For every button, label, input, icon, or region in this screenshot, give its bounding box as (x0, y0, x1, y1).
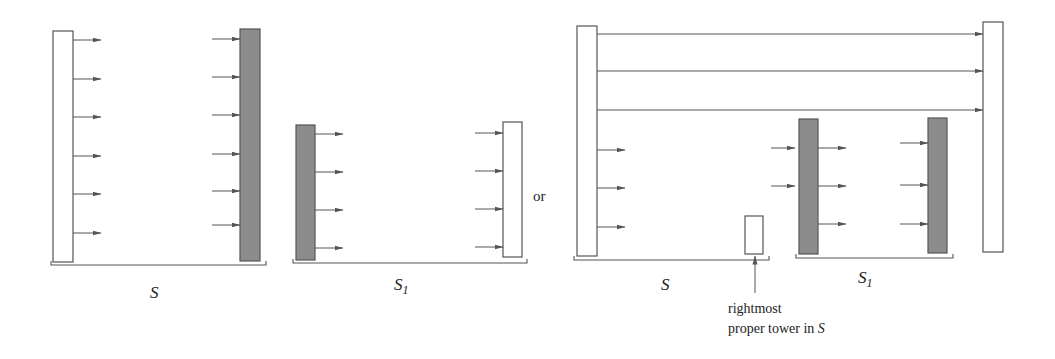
left-S1-tower-2 (503, 122, 522, 257)
right-left-tall-tower (577, 26, 597, 256)
right-S1-tower-1 (799, 119, 818, 254)
left-S1-tower-1 (296, 125, 315, 260)
left-S-bracket (51, 261, 266, 265)
right-right-tall-tower (983, 22, 1003, 252)
diagram-shapes (51, 22, 1003, 293)
annotation-line2-italic: S (818, 321, 825, 336)
left-S1-bracket (293, 259, 527, 263)
left-S-tower-2 (240, 29, 260, 261)
rightmost-proper-tower (745, 216, 763, 254)
annotation-line2: proper tower in S (728, 321, 825, 336)
left-label-S1-sub: 1 (403, 283, 409, 297)
annotation-line2-text: proper tower in (728, 321, 818, 336)
annotation-line1: rightmost (728, 301, 782, 316)
right-S1-tower-2 (928, 118, 947, 253)
right-label-S: S (661, 275, 670, 294)
left-label-S: S (150, 283, 159, 302)
right-S-bracket (574, 256, 769, 260)
left-S-tower-1 (53, 31, 73, 262)
right-label-S1: S1 (858, 268, 873, 290)
or-separator: or (533, 188, 546, 204)
right-S1-bracket (796, 254, 953, 258)
right-label-S1-sub: 1 (867, 276, 873, 290)
tower-diagram: S S1 or S S1 rightmost proper tower in S (0, 0, 1055, 359)
left-label-S1: S1 (394, 275, 409, 297)
